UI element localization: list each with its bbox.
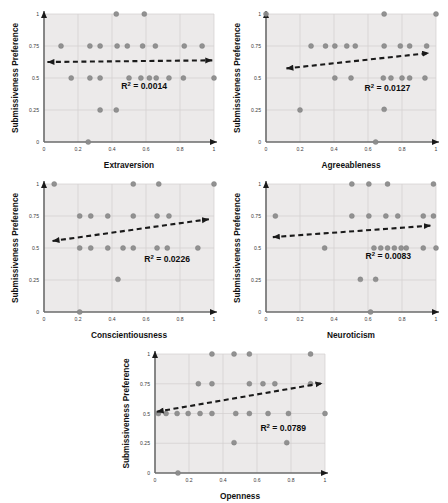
data-point xyxy=(127,76,132,81)
x-axis-title-conscientiousness: Conscientiousness xyxy=(91,330,167,340)
data-point xyxy=(125,44,130,49)
data-point xyxy=(382,107,387,112)
scatter-panel-neuroticism: 00.20.40.60.8100.250.50.751R2 = 0.0083Ne… xyxy=(230,176,442,342)
data-point xyxy=(77,310,82,315)
x-tick-label: 0.4 xyxy=(219,477,226,483)
data-point xyxy=(147,76,152,81)
x-tick-label: 0 xyxy=(265,146,268,152)
data-point xyxy=(284,440,289,445)
x-tick-label: 0.2 xyxy=(74,316,81,322)
data-point xyxy=(175,411,180,416)
data-point xyxy=(385,246,390,251)
data-point xyxy=(209,352,214,357)
x-axis-title-openness: Openness xyxy=(220,491,261,501)
y-tick-label: 0 xyxy=(258,309,261,315)
data-point xyxy=(77,246,82,251)
data-point xyxy=(332,44,337,49)
x-tick-label: 0.8 xyxy=(176,316,183,322)
x-tick-label: 1 xyxy=(213,146,216,152)
data-point xyxy=(98,108,103,113)
x-tick-label: 0.2 xyxy=(296,146,303,152)
y-tick-label: 0.75 xyxy=(140,381,150,387)
y-tick-label: 0 xyxy=(36,309,39,315)
x-tick-label: 0.4 xyxy=(108,146,115,152)
data-point xyxy=(198,411,203,416)
data-point xyxy=(344,44,349,49)
x-tick-label: 0.6 xyxy=(142,146,149,152)
x-tick-label: 0.4 xyxy=(108,316,115,322)
y-tick-label: 0.75 xyxy=(251,213,261,219)
x-tick-label: 0.4 xyxy=(330,316,337,322)
data-point xyxy=(196,381,201,386)
data-point xyxy=(155,214,160,219)
data-point xyxy=(247,381,252,386)
x-tick-label: 0.8 xyxy=(398,316,405,322)
scatter-panel-conscientiousness: 00.20.40.60.8100.250.50.751R2 = 0.0226Co… xyxy=(8,176,220,342)
chart-canvas-agreeableness: 00.20.40.60.8100.250.50.751R2 = 0.0127Ag… xyxy=(230,6,442,172)
data-point xyxy=(156,182,161,187)
x-tick-label: 0.6 xyxy=(253,477,260,483)
y-tick-label: 0.5 xyxy=(254,75,261,81)
data-point xyxy=(373,277,378,282)
data-point xyxy=(138,76,143,81)
data-point xyxy=(166,214,171,219)
scatter-panel-extraversion: 00.20.40.60.8100.250.50.751R2 = 0.0014Ex… xyxy=(8,6,220,172)
data-point xyxy=(195,246,200,251)
y-tick-label: 0.5 xyxy=(143,411,150,417)
data-point xyxy=(105,214,110,219)
y-tick-label: 1 xyxy=(258,11,261,17)
x-tick-label: 1 xyxy=(324,477,327,483)
x-tick-label: 0.8 xyxy=(287,477,294,483)
x-tick-label: 0.8 xyxy=(398,146,405,152)
data-point xyxy=(212,182,217,187)
scatter-plot-figure: 00.20.40.60.8100.250.50.751R2 = 0.0014Ex… xyxy=(0,0,448,503)
data-point xyxy=(88,246,93,251)
y-tick-label: 1 xyxy=(258,181,261,187)
y-tick-label: 0 xyxy=(258,139,261,145)
y-tick-label: 0.75 xyxy=(29,43,39,49)
data-point xyxy=(368,310,373,315)
data-point xyxy=(349,214,354,219)
data-point xyxy=(212,76,217,81)
data-point xyxy=(422,76,427,81)
data-point xyxy=(142,12,147,17)
data-point xyxy=(309,44,314,49)
y-tick-label: 0.5 xyxy=(32,75,39,81)
y-tick-label: 0.5 xyxy=(254,245,261,251)
data-point xyxy=(266,411,271,416)
data-point xyxy=(404,246,409,251)
data-point xyxy=(131,214,136,219)
data-point xyxy=(87,76,92,81)
data-point xyxy=(322,246,327,251)
y-axis-title-conscientiousness: Submissiveness Preference xyxy=(10,193,20,304)
data-point xyxy=(98,44,103,49)
y-tick-label: 0.75 xyxy=(29,213,39,219)
data-point xyxy=(400,76,405,81)
data-point xyxy=(59,44,64,49)
y-tick-label: 0.25 xyxy=(251,107,261,113)
x-tick-label: 0 xyxy=(43,146,46,152)
data-point xyxy=(232,352,237,357)
x-axis-title-neuroticism: Neuroticism xyxy=(327,330,375,340)
data-point xyxy=(175,471,180,476)
data-point xyxy=(398,44,403,49)
data-point xyxy=(165,246,170,251)
y-tick-label: 1 xyxy=(36,11,39,17)
data-point xyxy=(232,440,237,445)
y-tick-label: 0 xyxy=(36,139,39,145)
data-point xyxy=(131,246,136,251)
data-point xyxy=(371,246,376,251)
data-point xyxy=(407,44,412,49)
data-point xyxy=(69,76,74,81)
x-tick-label: 0.2 xyxy=(185,477,192,483)
x-tick-label: 1 xyxy=(213,316,216,322)
y-tick-label: 0.75 xyxy=(251,43,261,49)
x-tick-label: 0.2 xyxy=(296,316,303,322)
x-axis-title-agreeableness: Agreeableness xyxy=(321,160,380,170)
data-point xyxy=(166,76,171,81)
data-point xyxy=(434,246,439,251)
data-point xyxy=(395,214,400,219)
data-point xyxy=(154,76,159,81)
x-tick-label: 1 xyxy=(435,316,438,322)
data-point xyxy=(332,76,337,81)
